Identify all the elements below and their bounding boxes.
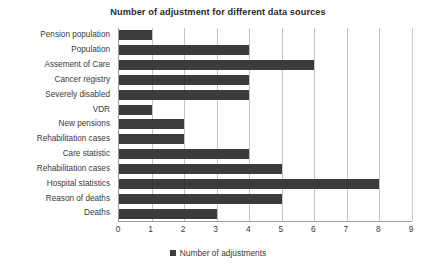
plot-area bbox=[118, 28, 412, 222]
y-axis-label: Rehabilitation cases bbox=[6, 162, 114, 177]
gridline bbox=[412, 28, 413, 221]
bar-chart: Number of adjustment for different data … bbox=[0, 0, 436, 270]
x-axis-tick: 6 bbox=[311, 224, 316, 234]
y-axis-category-labels: Pension populationPopulationAssement of … bbox=[6, 28, 114, 221]
bar bbox=[119, 179, 379, 189]
x-axis-tick-labels: 0123456789 bbox=[118, 224, 411, 238]
x-axis-tick: 4 bbox=[246, 224, 251, 234]
bar-row bbox=[119, 43, 412, 58]
bar-row bbox=[119, 87, 412, 102]
bar-row bbox=[119, 206, 412, 221]
bar bbox=[119, 209, 217, 219]
y-axis-label: Assement of Care bbox=[6, 58, 114, 73]
y-axis-label: Hospital statistics bbox=[6, 176, 114, 191]
x-axis-tick: 7 bbox=[344, 224, 349, 234]
bar bbox=[119, 30, 152, 40]
bar bbox=[119, 119, 184, 129]
y-axis-label: New pensions bbox=[6, 117, 114, 132]
y-axis-label: Deaths bbox=[6, 206, 114, 221]
y-axis-label: VDR bbox=[6, 102, 114, 117]
chart-legend: Number of adjustments bbox=[0, 248, 436, 258]
x-axis-tick: 0 bbox=[116, 224, 121, 234]
y-axis-label: Reason of deaths bbox=[6, 191, 114, 206]
bar-row bbox=[119, 132, 412, 147]
legend-label: Number of adjustments bbox=[180, 248, 267, 258]
bar-row bbox=[119, 58, 412, 73]
chart-title: Number of adjustment for different data … bbox=[0, 7, 436, 17]
x-axis-tick: 9 bbox=[409, 224, 414, 234]
legend-swatch-icon bbox=[170, 250, 176, 256]
bar bbox=[119, 60, 314, 70]
x-axis-tick: 3 bbox=[213, 224, 218, 234]
bar-row bbox=[119, 117, 412, 132]
bar bbox=[119, 105, 152, 115]
bar-row bbox=[119, 102, 412, 117]
y-axis-label: Severely disabled bbox=[6, 87, 114, 102]
x-axis-tick: 2 bbox=[181, 224, 186, 234]
bar-row bbox=[119, 191, 412, 206]
bar bbox=[119, 164, 282, 174]
bar bbox=[119, 90, 249, 100]
y-axis-label: Rehabilitation cases bbox=[6, 132, 114, 147]
bar-row bbox=[119, 147, 412, 162]
bar bbox=[119, 134, 184, 144]
bar bbox=[119, 149, 249, 159]
bar bbox=[119, 45, 249, 55]
bar-series bbox=[119, 28, 412, 221]
bar-row bbox=[119, 28, 412, 43]
x-axis-tick: 5 bbox=[278, 224, 283, 234]
bar-row bbox=[119, 176, 412, 191]
x-axis-tick: 1 bbox=[148, 224, 153, 234]
bar bbox=[119, 194, 282, 204]
y-axis-label: Cancer registry bbox=[6, 73, 114, 88]
y-axis-label: Population bbox=[6, 43, 114, 58]
y-axis-label: Care statistic bbox=[6, 147, 114, 162]
y-axis-label: Pension population bbox=[6, 28, 114, 43]
bar bbox=[119, 75, 249, 85]
bar-row bbox=[119, 162, 412, 177]
bar-row bbox=[119, 73, 412, 88]
x-axis-tick: 8 bbox=[376, 224, 381, 234]
